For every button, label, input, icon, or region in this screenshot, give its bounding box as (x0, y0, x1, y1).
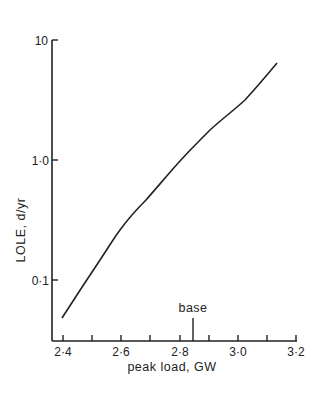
y-tick-label-1: 1·0 (32, 154, 50, 168)
x-tick-label-2.4: 2·4 (54, 345, 72, 359)
x-tick-label-2.6: 2·6 (112, 345, 130, 359)
x-tick-label-3.0: 3·0 (229, 345, 247, 359)
lole-chart: 10 1·0 0·1 LOLE, d/yr 2·4 2·6 2·8 3·0 3·… (0, 0, 320, 393)
base-label: base (178, 301, 207, 315)
x-tick-label-2.8: 2·8 (171, 345, 189, 359)
y-axis-label: LOLE, d/yr (14, 198, 28, 263)
y-tick-label-10: 10 (35, 34, 49, 48)
y-tick-label-0.1: 0·1 (32, 274, 50, 288)
x-axis-label: peak load, GW (127, 360, 216, 374)
lole-curve (62, 63, 277, 318)
x-ticks (63, 335, 296, 341)
x-tick-label-3.2: 3·2 (287, 345, 305, 359)
